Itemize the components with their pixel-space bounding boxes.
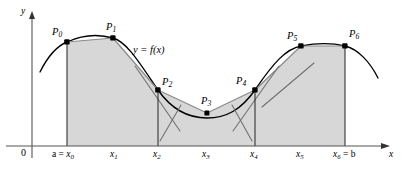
point-p6 xyxy=(342,43,347,48)
tick-label-x6-suffix: = b xyxy=(343,149,355,159)
label-point-p0: P0 xyxy=(52,27,62,39)
label-point-p1: P1 xyxy=(106,22,116,34)
label-point-p5: P5 xyxy=(287,31,297,43)
label-point-p0-sub: 0 xyxy=(58,30,62,39)
point-p0 xyxy=(64,39,69,44)
label-point-p3-sub: 3 xyxy=(207,99,211,108)
label-point-p2-sub: 2 xyxy=(168,80,172,89)
tick-label-x6: x6 = b xyxy=(333,150,356,161)
tick-label-x5: x5 xyxy=(296,150,304,161)
label-point-p6: P6 xyxy=(349,29,359,41)
origin-label: 0 xyxy=(21,148,26,158)
x-axis-label: x xyxy=(389,150,393,160)
tick-label-x4-sub: 4 xyxy=(254,153,257,160)
label-point-p4-sub: 4 xyxy=(242,79,246,88)
tick-label-x2-sub: 2 xyxy=(157,153,160,160)
figure-canvas xyxy=(0,0,405,171)
tick-label-x5-sub: 5 xyxy=(300,153,303,160)
point-p4 xyxy=(252,87,257,92)
tick-label-x3: x3 xyxy=(202,150,210,161)
label-point-p1-sub: 1 xyxy=(112,25,116,34)
function-label: y = f(x) xyxy=(133,45,165,56)
shaded-area-region xyxy=(67,38,345,146)
tick-label-x3-sub: 3 xyxy=(206,153,209,160)
y-axis-arrowhead xyxy=(29,11,35,19)
tick-label-x6-sub: 6 xyxy=(337,153,340,160)
tick-label-x0-prefix: a = xyxy=(52,149,64,159)
tick-label-x4: x4 xyxy=(250,150,258,161)
tick-label-x1-sub: 1 xyxy=(114,153,117,160)
tick-label-x2: x2 xyxy=(153,150,161,161)
tick-label-x0-sub: 0 xyxy=(71,153,74,160)
point-p5 xyxy=(298,43,303,48)
point-p2 xyxy=(155,87,160,92)
label-point-p2: P2 xyxy=(162,77,172,89)
tick-label-x1: x1 xyxy=(110,150,118,161)
point-p1 xyxy=(110,35,115,40)
label-point-p5-sub: 5 xyxy=(293,34,297,43)
label-point-p6-sub: 6 xyxy=(355,32,359,41)
tick-label-x0: a = x0 xyxy=(52,150,74,161)
calculus-area-figure: y x 0 y = f(x) P0 P1 P2 P3 P4 P5 P6 a = … xyxy=(0,0,405,171)
label-point-p4: P4 xyxy=(236,76,246,88)
y-axis-label: y xyxy=(21,7,25,17)
label-point-p3: P3 xyxy=(201,96,211,108)
point-p3 xyxy=(204,111,209,116)
